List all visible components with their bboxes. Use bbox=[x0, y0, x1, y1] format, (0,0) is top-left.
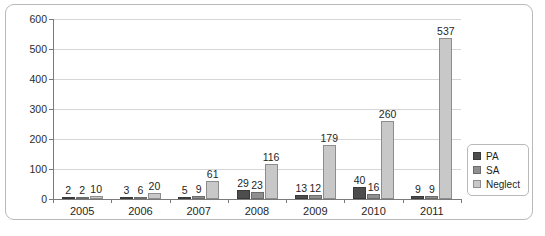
bar-value-label: 179 bbox=[315, 133, 343, 144]
bar-pa-2007[interactable] bbox=[178, 197, 191, 199]
chart-frame: 6005004003002001000 22103620596129231161… bbox=[5, 4, 533, 220]
bar-group: 4016260 bbox=[353, 19, 394, 199]
x-tick-label-2011: 2011 bbox=[403, 205, 461, 217]
bar-sa-2005[interactable] bbox=[76, 197, 89, 199]
x-axis-line bbox=[53, 199, 462, 200]
bar-pa-2011[interactable] bbox=[411, 196, 424, 199]
y-tick-label: 400 bbox=[7, 74, 47, 84]
legend-label-sa: SA bbox=[486, 165, 499, 176]
y-tick-label: 500 bbox=[7, 44, 47, 54]
legend-item-sa[interactable]: SA bbox=[473, 163, 524, 177]
bar-group: 3620 bbox=[120, 19, 161, 199]
y-tick-label: 600 bbox=[7, 14, 47, 24]
legend-label-neglect: Neglect bbox=[486, 179, 520, 190]
legend-item-pa[interactable]: PA bbox=[473, 149, 524, 163]
y-axis-line bbox=[53, 19, 54, 200]
x-tick-mark bbox=[461, 199, 462, 203]
bar-neglect-2010[interactable] bbox=[381, 121, 394, 199]
bar-value-label: 20 bbox=[140, 181, 168, 192]
bar-value-label: 61 bbox=[199, 169, 227, 180]
x-tick-mark bbox=[53, 199, 54, 203]
legend-swatch-sa-icon bbox=[473, 166, 481, 174]
bar-group: 1312179 bbox=[295, 19, 336, 199]
bar-group: 2210 bbox=[62, 19, 103, 199]
figure: 6005004003002001000 22103620596129231161… bbox=[0, 0, 545, 236]
bar-neglect-2007[interactable] bbox=[206, 181, 219, 199]
x-tick-label-2006: 2006 bbox=[111, 205, 169, 217]
bar-sa-2009[interactable] bbox=[309, 195, 322, 199]
x-tick-mark bbox=[228, 199, 229, 203]
y-tick-label: 0 bbox=[7, 194, 47, 204]
legend-item-neglect[interactable]: Neglect bbox=[473, 177, 524, 191]
bar-sa-2011[interactable] bbox=[425, 196, 438, 199]
bar-neglect-2011[interactable] bbox=[439, 38, 452, 199]
x-tick-label-2010: 2010 bbox=[344, 205, 402, 217]
bar-value-label: 537 bbox=[432, 26, 460, 37]
x-tick-mark bbox=[111, 199, 112, 203]
bar-neglect-2006[interactable] bbox=[148, 193, 161, 199]
bar-neglect-2008[interactable] bbox=[265, 164, 278, 199]
legend-swatch-neglect-icon bbox=[473, 180, 481, 188]
bar-sa-2007[interactable] bbox=[192, 196, 205, 199]
bar-group: 99537 bbox=[411, 19, 452, 199]
x-tick-label-2008: 2008 bbox=[228, 205, 286, 217]
legend-label-pa: PA bbox=[486, 151, 499, 162]
bar-pa-2009[interactable] bbox=[295, 195, 308, 199]
y-tick-label: 300 bbox=[7, 104, 47, 114]
bar-neglect-2005[interactable] bbox=[90, 196, 103, 199]
y-tick-label: 100 bbox=[7, 164, 47, 174]
bar-value-label: 10 bbox=[82, 184, 110, 195]
bar-value-label: 116 bbox=[257, 152, 285, 163]
bar-neglect-2009[interactable] bbox=[323, 145, 336, 199]
bar-group: 5961 bbox=[178, 19, 219, 199]
x-tick-mark bbox=[170, 199, 171, 203]
legend-swatch-pa-icon bbox=[473, 152, 481, 160]
bar-group: 2923116 bbox=[237, 19, 278, 199]
x-tick-label-2009: 2009 bbox=[286, 205, 344, 217]
x-tick-mark bbox=[344, 199, 345, 203]
x-tick-label-2007: 2007 bbox=[170, 205, 228, 217]
bar-value-label: 260 bbox=[374, 109, 402, 120]
chart-legend: PA SA Neglect bbox=[467, 144, 529, 196]
y-tick-label: 200 bbox=[7, 134, 47, 144]
bar-sa-2008[interactable] bbox=[251, 192, 264, 199]
bar-sa-2006[interactable] bbox=[134, 197, 147, 199]
bar-pa-2008[interactable] bbox=[237, 190, 250, 199]
x-tick-label-2005: 2005 bbox=[53, 205, 111, 217]
bar-sa-2010[interactable] bbox=[367, 194, 380, 199]
bar-pa-2006[interactable] bbox=[120, 197, 133, 199]
bar-pa-2005[interactable] bbox=[62, 197, 75, 199]
x-tick-mark bbox=[286, 199, 287, 203]
x-tick-mark bbox=[403, 199, 404, 203]
